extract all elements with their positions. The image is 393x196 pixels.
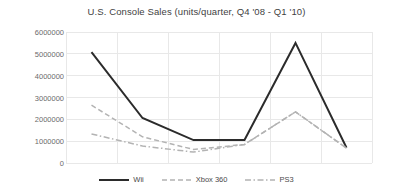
- legend-swatch-wii-icon: [99, 176, 129, 184]
- chart-legend: WiiXbox 360PS3: [0, 175, 393, 184]
- y-axis-tick-label: 6000000: [4, 28, 64, 37]
- y-axis-tick-label: 2000000: [4, 115, 64, 124]
- legend-label: Xbox 360: [196, 175, 228, 184]
- legend-label: Wii: [133, 175, 143, 184]
- y-axis-tick-label: 4000000: [4, 71, 64, 80]
- y-axis-tick-label: 5000000: [4, 49, 64, 58]
- grid-lines: [66, 32, 372, 163]
- legend-item-wii[interactable]: Wii: [99, 175, 143, 184]
- legend-swatch-xbox-360-icon: [162, 176, 192, 184]
- legend-label: PS3: [279, 175, 293, 184]
- legend-item-xbox-360[interactable]: Xbox 360: [162, 175, 228, 184]
- legend-swatch-ps3-icon: [245, 176, 275, 184]
- chart-container: U.S. Console Sales (units/quarter, Q4 '0…: [0, 0, 393, 196]
- legend-item-ps3[interactable]: PS3: [245, 175, 293, 184]
- y-axis-tick-label: 3000000: [4, 93, 64, 102]
- y-axis-tick-label: 1000000: [4, 137, 64, 146]
- y-axis-tick-labels: 6000000500000040000003000000200000010000…: [0, 0, 64, 196]
- y-axis-tick-label: 0: [4, 159, 64, 168]
